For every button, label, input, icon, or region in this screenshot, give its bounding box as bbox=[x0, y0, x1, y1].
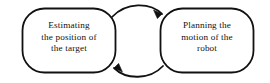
node-estimating-position-shape bbox=[23, 9, 116, 73]
node-planning-motion-shape bbox=[161, 9, 254, 73]
diagram-graphics bbox=[0, 0, 270, 83]
diagram-canvas: Estimating the position of the target Pl… bbox=[0, 0, 270, 83]
